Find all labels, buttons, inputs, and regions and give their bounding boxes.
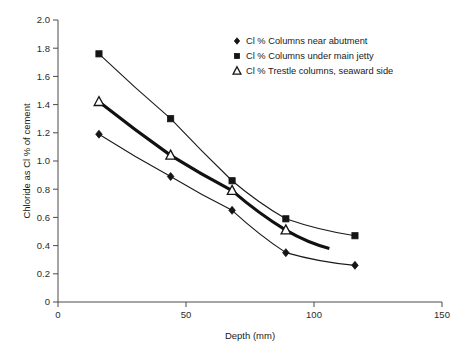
x-tick-label: 150 bbox=[434, 309, 450, 320]
data-point-triangle-open bbox=[233, 67, 241, 74]
legend-label: Cl % Trestle columns, seaward side bbox=[246, 66, 393, 76]
x-tick-label: 50 bbox=[181, 309, 192, 320]
chart-container: 00.20.40.60.81.01.21.41.61.82.0 05010015… bbox=[0, 0, 455, 346]
axes bbox=[58, 20, 442, 302]
chart-legend: Cl % Columns near abutmentCl % Columns u… bbox=[233, 36, 393, 76]
legend-item-0: Cl % Columns near abutment bbox=[234, 36, 368, 46]
y-tick-label: 0 bbox=[45, 296, 50, 307]
y-tick-label: 0.8 bbox=[37, 184, 50, 195]
y-tick-label: 2.0 bbox=[37, 14, 50, 25]
legend-label: Cl % Columns under main jetty bbox=[246, 51, 374, 61]
x-axis-label: Depth (mm) bbox=[225, 330, 275, 341]
line-chart: 00.20.40.60.81.01.21.41.61.82.0 05010015… bbox=[0, 0, 455, 346]
series-line bbox=[99, 102, 329, 249]
data-point-square bbox=[229, 178, 235, 184]
y-tick-label: 0.6 bbox=[37, 212, 50, 223]
data-point-diamond bbox=[283, 249, 290, 257]
data-point-diamond bbox=[352, 261, 359, 269]
x-tick-label: 0 bbox=[55, 309, 60, 320]
data-point-square bbox=[283, 216, 289, 222]
data-point-triangle-open bbox=[94, 97, 104, 106]
data-point-diamond bbox=[96, 130, 103, 138]
legend-label: Cl % Columns near abutment bbox=[246, 36, 368, 46]
series-line bbox=[99, 54, 355, 236]
y-tick-label: 1.0 bbox=[37, 155, 50, 166]
series-1 bbox=[96, 51, 358, 239]
data-point-square bbox=[168, 116, 174, 122]
data-point-square bbox=[234, 53, 239, 58]
data-series bbox=[94, 51, 358, 270]
series-2 bbox=[94, 97, 329, 249]
y-tick-label: 1.2 bbox=[37, 127, 50, 138]
y-axis-ticks: 00.20.40.60.81.01.21.41.61.82.0 bbox=[37, 14, 58, 307]
legend-item-1: Cl % Columns under main jetty bbox=[234, 51, 374, 61]
data-point-diamond bbox=[234, 38, 239, 45]
series-0 bbox=[96, 130, 359, 269]
x-axis-ticks: 050100150 bbox=[55, 302, 450, 320]
y-tick-label: 1.6 bbox=[37, 71, 50, 82]
data-point-square bbox=[96, 51, 102, 57]
y-tick-label: 0.4 bbox=[37, 240, 50, 251]
y-tick-label: 1.8 bbox=[37, 43, 50, 54]
legend-item-2: Cl % Trestle columns, seaward side bbox=[233, 66, 393, 76]
y-tick-label: 0.2 bbox=[37, 268, 50, 279]
y-tick-label: 1.4 bbox=[37, 99, 50, 110]
x-tick-label: 100 bbox=[306, 309, 322, 320]
axis-lines bbox=[58, 20, 442, 302]
data-point-square bbox=[352, 233, 358, 239]
y-axis-label: Chloride as Cl % of cement bbox=[21, 103, 32, 218]
data-point-diamond bbox=[167, 173, 174, 181]
